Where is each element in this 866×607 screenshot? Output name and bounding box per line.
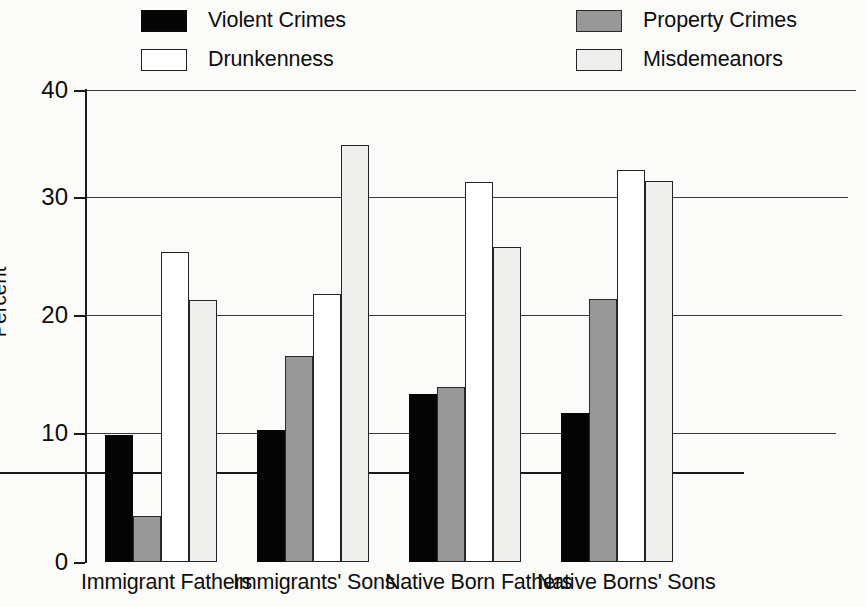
y-tick-mark-20 <box>74 315 85 317</box>
x-category-label-immigrants-sons: Immigrants' Sons <box>233 570 393 595</box>
x-category-label-immigrant-fathers: Immigrant Fathers <box>81 570 241 595</box>
bar-violent-crimes-immigrants-sons <box>257 430 285 562</box>
x-category-label-native-born-fathers: Native Born Fathers <box>385 570 545 595</box>
legend-swatch-drunkenness <box>141 49 187 71</box>
bar-drunkenness-immigrant-fathers <box>161 252 189 562</box>
legend-swatch-violent-crimes <box>141 10 187 32</box>
y-axis-title: Percent <box>0 267 11 338</box>
bar-violent-crimes-native-borns-sons <box>561 413 589 562</box>
bar-property-crimes-native-born-fathers <box>437 387 465 562</box>
y-tick-mark-0 <box>74 562 85 564</box>
legend-item-drunkenness: Drunkenness <box>141 47 334 72</box>
bar-misdemeanors-immigrants-sons <box>341 145 369 562</box>
bar-property-crimes-immigrants-sons <box>285 356 313 563</box>
bar-violent-crimes-native-born-fathers <box>409 394 437 562</box>
bar-misdemeanors-native-borns-sons <box>645 181 673 562</box>
legend-swatch-property-crimes <box>576 10 622 32</box>
legend-label-drunkenness: Drunkenness <box>208 47 334 72</box>
bar-misdemeanors-immigrant-fathers <box>189 300 217 562</box>
y-tick-label-20: 20 <box>26 303 68 327</box>
chart-legend: Violent Crimes Property Crimes Drunkenne… <box>0 0 866 80</box>
bar-property-crimes-native-borns-sons <box>589 299 617 562</box>
y-tick-mark-10 <box>74 433 85 435</box>
legend-item-misdemeanors: Misdemeanors <box>576 47 783 72</box>
bar-chart-figure: Violent Crimes Property Crimes Drunkenne… <box>0 0 866 607</box>
y-tick-label-10: 10 <box>26 421 68 445</box>
bar-misdemeanors-native-born-fathers <box>493 247 521 562</box>
y-tick-mark-30 <box>74 197 85 199</box>
legend-item-property-crimes: Property Crimes <box>576 8 797 33</box>
legend-label-property-crimes: Property Crimes <box>643 8 797 33</box>
y-tick-mark-40 <box>74 90 85 92</box>
bar-drunkenness-native-born-fathers <box>465 182 493 562</box>
y-tick-label-0: 0 <box>44 550 68 574</box>
y-tick-label-30: 30 <box>26 185 68 209</box>
y-tick-label-40: 40 <box>26 78 68 102</box>
legend-item-violent-crimes: Violent Crimes <box>141 8 346 33</box>
x-category-label-native-borns-sons: Native Borns' Sons <box>537 570 697 595</box>
legend-label-violent-crimes: Violent Crimes <box>208 8 346 33</box>
legend-label-misdemeanors: Misdemeanors <box>643 47 783 72</box>
bar-drunkenness-native-borns-sons <box>617 170 645 562</box>
bar-violent-crimes-immigrant-fathers <box>105 435 133 562</box>
bars-layer <box>86 90 866 562</box>
bar-drunkenness-immigrants-sons <box>313 294 341 562</box>
legend-swatch-misdemeanors <box>576 49 622 71</box>
bar-property-crimes-immigrant-fathers <box>133 516 161 562</box>
